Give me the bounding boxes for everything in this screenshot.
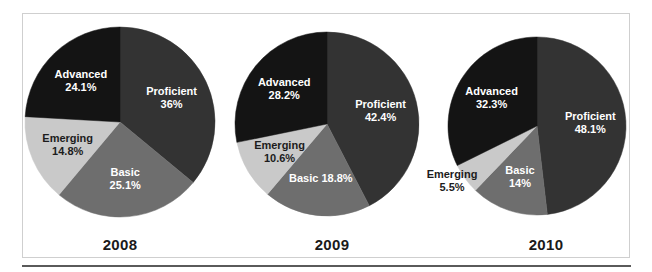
pie-charts-svg: Proficient36%Basic25.1%Emerging14.8%Adva… [0, 0, 652, 272]
slice-label-basic-2009: Basic 18.8% [289, 172, 353, 184]
slice-value-advanced-2008: 24.1% [65, 81, 96, 93]
bottom-rule [22, 265, 631, 267]
slice-value-proficient-2008: 36% [161, 98, 183, 110]
slice-value-emerging-2010: 5.5% [439, 181, 464, 193]
year-label-2010: 2010 [529, 236, 564, 253]
slice-label-proficient-2008: Proficient [146, 85, 197, 97]
charts-layer: Proficient36%Basic25.1%Emerging14.8%Adva… [0, 0, 652, 272]
slice-value-proficient-2010: 48.1% [575, 123, 606, 135]
slice-label-advanced-2010: Advanced [465, 85, 518, 97]
year-label-2009: 2009 [315, 236, 350, 253]
slice-value-emerging-2009: 10.6% [264, 152, 295, 164]
slice-label-emerging-2010: Emerging [427, 168, 478, 180]
slice-value-advanced-2010: 32.3% [476, 98, 507, 110]
slice-label-proficient-2009: Proficient [355, 98, 406, 110]
slice-label-emerging-2008: Emerging [42, 132, 93, 144]
slice-value-basic-2010: 14% [509, 177, 531, 189]
slice-value-proficient-2009: 42.4% [365, 111, 396, 123]
slice-label-advanced-2009: Advanced [258, 76, 311, 88]
slice-value-emerging-2008: 14.8% [52, 145, 83, 157]
slice-value-basic-2008: 25.1% [110, 179, 141, 191]
slice-label-proficient-2010: Proficient [565, 110, 616, 122]
slice-value-advanced-2009: 28.2% [269, 89, 300, 101]
slice-label-basic-2008: Basic [111, 166, 140, 178]
slice-label-advanced-2008: Advanced [55, 68, 108, 80]
year-label-2008: 2008 [103, 236, 138, 253]
figure-pie-chart-series: Proficient36%Basic25.1%Emerging14.8%Adva… [0, 0, 652, 272]
slice-label-emerging-2009: Emerging [254, 139, 305, 151]
slice-label-basic-2010: Basic [505, 164, 534, 176]
